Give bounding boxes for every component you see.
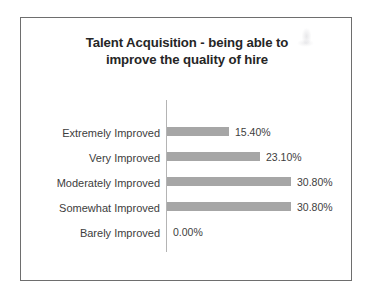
category-label: Extremely Improved	[21, 126, 160, 140]
chart-title: Talent Acquisition - being able to impro…	[39, 34, 335, 68]
category-label: Very Improved	[21, 151, 160, 165]
bar-row: Somewhat Improved 30.80%	[21, 197, 353, 222]
bar	[167, 152, 260, 161]
chart-frame: Talent Acquisition - being able to impro…	[20, 17, 352, 281]
bar-row: Moderately Improved 30.80%	[21, 172, 353, 197]
bar-row: Barely Improved 0.00%	[21, 222, 353, 247]
bar	[167, 177, 291, 186]
value-label: 0.00%	[173, 225, 203, 239]
chart-title-line-1: Talent Acquisition - being able to	[39, 34, 335, 51]
category-label: Moderately Improved	[21, 176, 160, 190]
bar	[167, 127, 229, 136]
bar-row: Extremely Improved 15.40%	[21, 122, 353, 147]
value-label: 30.80%	[297, 200, 333, 214]
category-label: Barely Improved	[21, 226, 160, 240]
plot-area: Extremely Improved 15.40% Very Improved …	[21, 90, 353, 270]
value-label: 30.80%	[297, 175, 333, 189]
bar	[167, 202, 291, 211]
value-label: 23.10%	[266, 150, 302, 164]
value-label: 15.40%	[235, 125, 271, 139]
category-label: Somewhat Improved	[21, 201, 160, 215]
chart-title-line-2: improve the quality of hire	[39, 51, 335, 68]
bar-row: Very Improved 23.10%	[21, 147, 353, 172]
